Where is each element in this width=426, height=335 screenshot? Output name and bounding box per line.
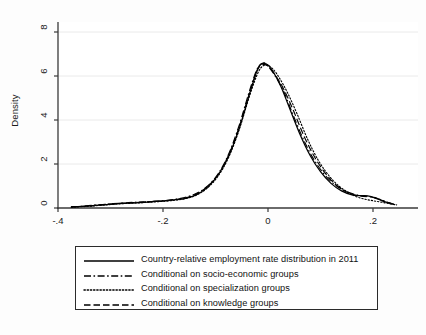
y-tick-label: 2 <box>38 157 49 171</box>
legend-item[interactable]: Conditional on knowledge groups <box>76 296 377 311</box>
legend-line-dashed-icon <box>83 297 135 309</box>
density-plot-svg <box>0 0 426 240</box>
chart-legend: Country-relative employment rate distrib… <box>75 246 378 310</box>
y-axis-title: Density <box>9 76 20 146</box>
x-tick-label: 0 <box>253 215 283 226</box>
legend-item-label: Conditional on knowledge groups <box>141 298 278 308</box>
plot-area <box>0 0 426 240</box>
legend-line-dash-dot-icon <box>83 268 135 280</box>
x-tick-label: -.4 <box>43 215 73 226</box>
y-tick-label: 8 <box>38 25 49 39</box>
legend-line-solid-icon <box>83 253 135 265</box>
chart-figure: Density 02468-.4-.20.2 Country-relative … <box>0 0 426 335</box>
y-tick-label: 6 <box>38 69 49 83</box>
legend-item-label: Conditional on socio-economic groups <box>141 269 299 279</box>
y-tick-label: 0 <box>38 201 49 215</box>
legend-item-label: Country-relative employment rate distrib… <box>141 254 358 264</box>
legend-item-label: Conditional on specialization groups <box>141 283 290 293</box>
legend-item[interactable]: Conditional on specialization groups <box>76 281 377 296</box>
x-tick-label: .2 <box>358 215 388 226</box>
legend-line-dotted-icon <box>83 282 135 294</box>
y-tick-label: 4 <box>38 113 49 127</box>
x-tick-label: -.2 <box>148 215 178 226</box>
legend-item[interactable]: Conditional on socio-economic groups <box>76 267 377 282</box>
legend-item[interactable]: Country-relative employment rate distrib… <box>76 252 377 267</box>
